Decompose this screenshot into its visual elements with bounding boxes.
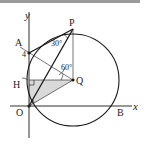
label-p: P: [69, 17, 75, 28]
label-a-value: 4: [22, 50, 26, 59]
label-h: H: [13, 79, 20, 90]
label-a: A: [15, 37, 23, 48]
point-a: [27, 51, 30, 54]
y-axis-label: y: [24, 9, 30, 21]
point-o: [27, 104, 30, 107]
angle-arc-q: [61, 74, 63, 80]
label-angle-60: 60°: [61, 63, 72, 72]
label-angle-30: 30°: [51, 39, 62, 48]
label-b: B: [117, 107, 124, 118]
label-q: Q: [76, 75, 84, 86]
x-axis-label: x: [132, 100, 138, 112]
point-q: [71, 78, 74, 81]
label-o: O: [16, 107, 23, 118]
geometry-diagram: y x P A 4 30° 60° Q H O B: [0, 0, 146, 148]
